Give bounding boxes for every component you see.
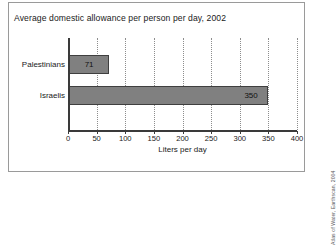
gridline <box>211 38 212 130</box>
bar-row: 71 <box>68 55 297 74</box>
x-tick-label: 200 <box>176 134 189 143</box>
chart-title: Average domestic allowance per person pe… <box>14 13 226 24</box>
bar <box>68 86 268 105</box>
category-label: Palestinians <box>22 60 65 69</box>
gridline <box>154 38 155 130</box>
x-tick-label: 350 <box>262 134 275 143</box>
gridline <box>268 38 269 130</box>
x-tick-label: 50 <box>92 134 100 143</box>
bar-value-label: 350 <box>244 91 257 100</box>
bar-value-label: 71 <box>85 60 94 69</box>
x-tick-label: 0 <box>66 134 70 143</box>
category-label: Israelis <box>40 91 65 100</box>
gridline <box>125 38 126 130</box>
plot-area: 71350 <box>68 38 297 130</box>
bar-row: 350 <box>68 86 297 105</box>
x-tick-label: 150 <box>148 134 161 143</box>
y-axis-line <box>68 38 70 131</box>
gridline <box>240 38 241 130</box>
x-tick-label: 300 <box>233 134 246 143</box>
x-tick-label: 400 <box>291 134 304 143</box>
gridline <box>183 38 184 130</box>
gridlines <box>68 38 297 130</box>
source-credit: Atlas of Water, Earthscan, 2004 <box>330 171 336 245</box>
gridline <box>97 38 98 130</box>
x-tick-label: 100 <box>119 134 132 143</box>
x-tick-label: 250 <box>205 134 218 143</box>
x-axis-title: Liters per day <box>68 145 297 155</box>
